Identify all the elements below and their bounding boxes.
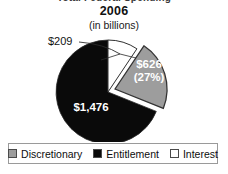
black-square-icon — [93, 149, 102, 158]
slice-label-discretionary-percent: (27%) — [134, 71, 165, 83]
legend-label: Discretionary — [21, 148, 82, 160]
slice-label-discretionary-value: $626 — [136, 58, 162, 70]
pie-chart-canvas: $1,476 $626 (27%) $209 — [0, 32, 228, 142]
legend-label: Entitlement — [106, 148, 159, 160]
slice-label-interest-callout: $209 — [48, 35, 72, 47]
chart-legend: Discretionary Entitlement Interest — [8, 143, 218, 164]
legend-item-interest[interactable]: Interest — [170, 148, 218, 160]
chart-subtitle-units: (in billions) — [0, 19, 228, 32]
chart-title-year: 2006 — [0, 4, 228, 18]
white-square-icon — [170, 149, 179, 158]
slice-label-entitlement: $1,476 — [73, 101, 108, 113]
cropped-title-remnant: Total Federal Spending — [0, 0, 228, 3]
pie-chart-figure: Total Federal Spending 2006 (in billions… — [0, 0, 228, 174]
pie-chart-svg: $1,476 $626 (27%) $209 — [0, 32, 228, 142]
legend-item-discretionary[interactable]: Discretionary — [8, 148, 82, 160]
legend-label: Interest — [183, 148, 218, 160]
legend-item-entitlement[interactable]: Entitlement — [93, 148, 159, 160]
cropped-title-text: Total Federal Spending — [0, 0, 228, 3]
gray-square-icon — [8, 149, 17, 158]
